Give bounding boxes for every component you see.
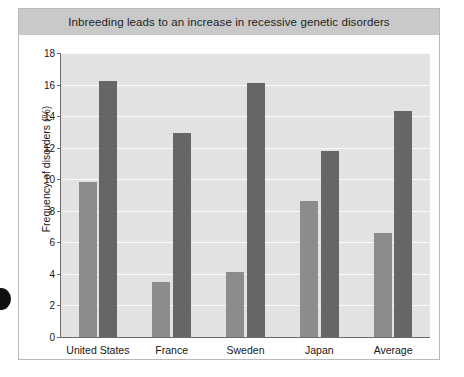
bar-group (282, 53, 356, 337)
y-tick-label: 16 (44, 79, 55, 90)
bar-group (135, 53, 209, 337)
bar (374, 233, 392, 337)
bar-group (61, 53, 135, 337)
bar (394, 111, 412, 337)
y-tick-label: 4 (49, 268, 55, 279)
y-tick-label: 2 (49, 300, 55, 311)
bar (321, 151, 339, 337)
bar-group (209, 53, 283, 337)
bar (152, 282, 170, 337)
y-tick-label: 14 (44, 111, 55, 122)
chart-title-band: Inbreeding leads to an increase in reces… (19, 9, 439, 35)
chart-title: Inbreeding leads to an increase in reces… (68, 16, 389, 28)
hole-punch-icon (0, 288, 11, 310)
y-tick-label: 12 (44, 142, 55, 153)
bar (300, 201, 318, 337)
y-tick-label: 8 (49, 205, 55, 216)
plot-area-wrapper: 024681012141618 United StatesFranceSwede… (60, 53, 430, 338)
bar (79, 182, 97, 337)
plot-area: 024681012141618 United StatesFranceSwede… (60, 53, 430, 338)
y-tick-label: 6 (49, 237, 55, 248)
x-tick-label: France (155, 344, 188, 356)
page-canvas: Inbreeding leads to an increase in reces… (0, 0, 464, 377)
y-tick-label: 18 (44, 48, 55, 59)
x-tick-label: United States (66, 344, 129, 356)
y-tick-mark (57, 337, 61, 338)
bar (226, 272, 244, 337)
chart-figure: Inbreeding leads to an increase in reces… (18, 8, 440, 360)
bar-group (356, 53, 430, 337)
y-tick-label: 10 (44, 174, 55, 185)
bar (173, 133, 191, 337)
x-tick-label: Japan (305, 344, 334, 356)
x-tick-label: Average (374, 344, 413, 356)
x-tick-label: Sweden (227, 344, 265, 356)
bar (99, 81, 117, 337)
bar (247, 83, 265, 337)
y-tick-label: 0 (49, 332, 55, 343)
